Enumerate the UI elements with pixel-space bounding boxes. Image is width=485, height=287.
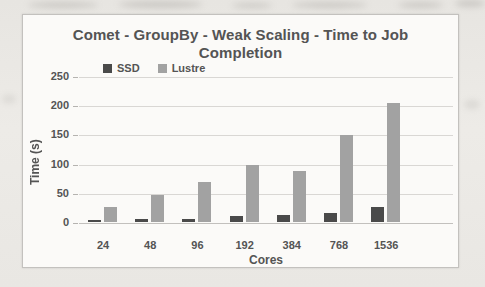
bar-ssd-24 [88,220,101,222]
photo-artifact [398,2,443,8]
photo-artifact [464,100,480,109]
bar-ssd-192 [230,216,243,222]
bar-lustre-192 [246,165,259,222]
bar-lustre-1536 [387,103,400,222]
legend: SSD Lustre [103,62,205,74]
photo-artifact [2,95,16,103]
x-axis-title: Cores [79,253,453,267]
bar-ssd-768 [324,213,337,222]
photo-artifact [118,1,203,8]
y-tick-label-150: 150 [37,128,69,140]
x-tick-label-24: 24 [81,239,125,251]
photo-artifact [292,2,367,8]
x-axis-line [79,223,453,224]
bar-lustre-96 [198,182,211,222]
y-tick-label-50: 50 [37,187,69,199]
y-tick-label-200: 200 [37,99,69,111]
gridline-250 [79,77,453,78]
x-tick-label-48: 48 [128,239,172,251]
y-tick-mark-0 [73,223,78,224]
chart: Comet - GroupBy - Weak Scaling - Time to… [22,14,459,268]
y-tick-mark-200 [73,106,78,107]
bar-ssd-384 [277,215,290,222]
photo-artifact [232,3,272,8]
y-tick-mark-50 [73,194,78,195]
x-tick-label-192: 192 [223,239,267,251]
plot-area [79,77,453,223]
legend-label-lustre: Lustre [172,62,206,74]
legend-item-lustre: Lustre [158,62,206,74]
bar-ssd-96 [182,219,195,223]
photo-artifact [28,2,98,8]
photo-artifact [455,0,485,7]
lustre-swatch-icon [158,64,167,73]
chart-title-line-2: Completion [23,44,458,62]
bar-lustre-48 [151,195,164,222]
chart-title: Comet - GroupBy - Weak Scaling - Time to… [23,26,458,62]
x-tick-label-768: 768 [317,239,361,251]
bar-ssd-1536 [371,207,384,222]
y-tick-mark-100 [73,165,78,166]
y-tick-mark-250 [73,77,78,78]
y-tick-label-250: 250 [37,70,69,82]
bar-ssd-48 [135,219,148,222]
legend-label-ssd: SSD [117,62,140,74]
chart-title-line-1: Comet - GroupBy - Weak Scaling - Time to… [23,26,458,44]
y-tick-label-100: 100 [37,158,69,170]
ssd-swatch-icon [103,64,112,73]
y-tick-label-0: 0 [37,216,69,228]
x-tick-label-384: 384 [270,239,314,251]
x-tick-label-1536: 1536 [364,239,408,251]
bar-lustre-384 [293,171,306,222]
legend-item-ssd: SSD [103,62,140,74]
y-tick-mark-150 [73,135,78,136]
x-tick-label-96: 96 [175,239,219,251]
bar-lustre-24 [104,207,117,222]
bar-lustre-768 [340,135,353,222]
